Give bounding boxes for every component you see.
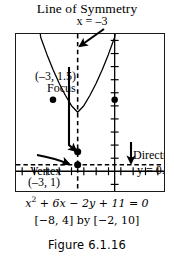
focus-label: Focus	[47, 82, 76, 94]
focus-point	[74, 148, 81, 155]
directrix-equation-label: y = 0.5	[137, 164, 165, 176]
right-curve-point	[111, 97, 118, 104]
vertex-point	[74, 161, 81, 168]
line-of-symmetry-equation-label: x = –3	[57, 15, 127, 28]
figure-caption: Figure 6.1.16	[0, 238, 174, 252]
directrix-label: Directrix	[133, 149, 165, 161]
left-curve-point	[50, 97, 57, 104]
vertex-coordinates-label: (–3, 1)	[28, 176, 60, 188]
figure-container: Line of Symmetry x = –3	[0, 0, 174, 268]
equation-remainder: + 6x − 2y + 11 = 0	[36, 197, 148, 210]
equation-text: x2 + 6x − 2y + 11 = 0	[0, 197, 174, 210]
viewing-window-text: [−8, 4] by [−2, 10]	[0, 214, 174, 227]
graph-plot-area: (–3, 1.5) Focus Vertex (–3, 1) Directrix…	[15, 33, 165, 192]
